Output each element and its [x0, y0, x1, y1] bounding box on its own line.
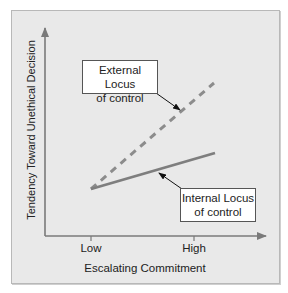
internal-locus-callout: Internal Locus of control: [180, 188, 256, 222]
external-pointer-arrow: [156, 93, 180, 110]
x-axis-title: Escalating Commitment: [84, 262, 206, 274]
internal-locus-line: [91, 153, 215, 189]
x-tick-label-high: High: [182, 242, 206, 254]
internal-pointer-arrow: [159, 173, 182, 189]
internal-callout-line2: of control: [181, 205, 255, 219]
y-axis-title: Tendency Toward Unethical Decision: [25, 40, 37, 220]
external-callout-line1: External Locus: [83, 63, 157, 91]
internal-callout-line1: Internal Locus: [181, 191, 255, 205]
chart-svg: Low High Escalating Commitment Tendency …: [0, 0, 288, 293]
external-callout-line2: of control: [83, 91, 157, 105]
x-tick-label-low: Low: [80, 242, 102, 254]
external-locus-callout: External Locus of control: [82, 60, 158, 94]
